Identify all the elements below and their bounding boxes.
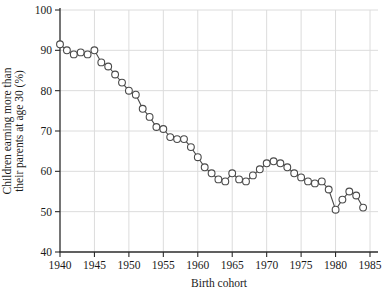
data-point-marker (167, 134, 174, 141)
x-tick-label: 1980 (324, 259, 347, 271)
y-tick-label: 60 (41, 165, 53, 177)
data-point-marker (132, 91, 139, 98)
grid-layer (60, 10, 378, 252)
data-point-marker (125, 87, 132, 94)
y-tick-label: 50 (41, 206, 53, 218)
data-point-marker (222, 178, 229, 185)
data-point-marker (119, 79, 126, 86)
data-point-marker (243, 178, 250, 185)
data-point-marker (139, 105, 146, 112)
y-axis-title-line2: their parents at age 30 (%) (13, 70, 26, 192)
x-tick-label: 1965 (221, 259, 244, 271)
x-tick-label: 1940 (49, 259, 72, 271)
data-point-marker (250, 172, 257, 179)
x-tick-label: 1945 (83, 259, 106, 271)
data-point-marker (188, 144, 195, 151)
data-point-marker (353, 192, 360, 199)
data-point-marker (181, 136, 188, 143)
y-tick-label: 80 (41, 85, 53, 97)
y-tick-label: 40 (41, 246, 53, 258)
data-point-marker (70, 51, 77, 58)
data-point-marker (332, 206, 339, 213)
x-tick-label: 1985 (359, 259, 382, 271)
data-point-marker (339, 196, 346, 203)
data-point-marker (263, 160, 270, 167)
data-point-marker (77, 49, 84, 56)
axis-layer: 4050607080901001940194519501955196019651… (35, 4, 382, 271)
data-point-marker (153, 124, 160, 131)
data-point-marker (215, 176, 222, 183)
data-point-marker (346, 188, 353, 195)
data-point-marker (160, 126, 167, 133)
data-series (57, 41, 367, 213)
data-point-marker (305, 178, 312, 185)
data-point-marker (146, 114, 153, 121)
data-point-marker (174, 136, 181, 143)
data-point-marker (112, 71, 119, 78)
label-layer: Children earning more than their parents… (1, 67, 248, 289)
data-point-marker (208, 170, 215, 177)
data-point-marker (256, 166, 263, 173)
data-point-marker (236, 176, 243, 183)
data-point-marker (291, 170, 298, 177)
data-point-marker (270, 158, 277, 165)
data-point-marker (98, 59, 105, 66)
data-point-marker (312, 180, 319, 187)
line-chart-figure: 4050607080901001940194519501955196019651… (0, 0, 387, 298)
y-tick-label: 100 (35, 4, 53, 16)
plot-area: 4050607080901001940194519501955196019651… (0, 0, 387, 298)
x-axis-title: Birth cohort (191, 277, 248, 289)
y-tick-label: 70 (41, 125, 53, 137)
x-tick-label: 1950 (117, 259, 140, 271)
data-point-marker (277, 160, 284, 167)
data-point-marker (91, 47, 98, 54)
data-point-marker (318, 178, 325, 185)
x-tick-label: 1960 (186, 259, 209, 271)
data-point-marker (325, 186, 332, 193)
x-tick-label: 1955 (152, 259, 175, 271)
data-point-marker (298, 174, 305, 181)
data-point-marker (284, 164, 291, 171)
data-point-marker (105, 63, 112, 70)
x-tick-label: 1975 (290, 259, 313, 271)
data-point-marker (194, 154, 201, 161)
data-point-marker (229, 170, 236, 177)
y-tick-label: 90 (41, 44, 53, 56)
x-tick-label: 1970 (255, 259, 278, 271)
data-point-marker (84, 51, 91, 58)
data-point-marker (57, 41, 64, 48)
data-point-marker (201, 164, 208, 171)
data-point-marker (64, 47, 71, 54)
data-point-marker (360, 204, 367, 211)
